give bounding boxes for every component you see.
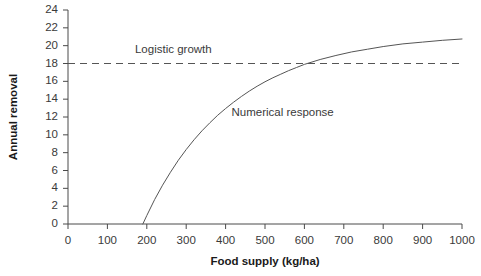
y-tick-label: 4 [20, 182, 58, 194]
y-tick-label: 24 [20, 4, 58, 16]
y-axis-ticks [63, 10, 68, 224]
y-tick-label: 22 [20, 22, 58, 34]
y-tick-label: 20 [20, 40, 58, 52]
y-tick-label: 10 [20, 129, 58, 141]
y-tick-label: 6 [20, 165, 58, 177]
y-tick-label: 8 [20, 147, 58, 159]
chart-figure: 024681012141618202224 010020030040050060… [0, 0, 481, 276]
y-tick-label: 18 [20, 58, 58, 70]
y-tick-label: 14 [20, 93, 58, 105]
y-tick-label: 16 [20, 75, 58, 87]
y-axis-title: Annual removal [8, 74, 20, 160]
x-tick-label: 1000 [437, 235, 481, 247]
x-axis-ticks [68, 224, 462, 229]
y-tick-label: 12 [20, 111, 58, 123]
annotation-numerical-response: Numerical response [232, 107, 334, 119]
y-tick-label: 0 [20, 218, 58, 230]
y-tick-label: 2 [20, 200, 58, 212]
x-axis-title: Food supply (kg/ha) [210, 256, 319, 268]
series-numerical-response [143, 39, 462, 224]
annotation-logistic-growth: Logistic growth [135, 44, 212, 56]
